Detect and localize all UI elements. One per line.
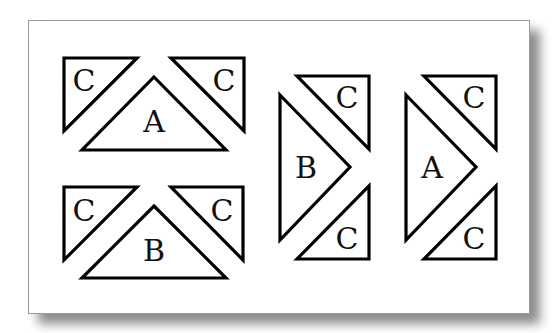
piece-label: A <box>142 104 165 139</box>
piece-label: C <box>336 80 359 115</box>
piece-label: C <box>463 221 486 256</box>
piecing-diagram: C C A C C B C B C C A C <box>0 0 558 333</box>
unit-right-2: C A C <box>406 76 496 259</box>
piece-label: C <box>211 193 234 228</box>
piece-label: B <box>295 150 317 185</box>
unit-bottom-left: C C B <box>64 187 243 278</box>
piece-label: C <box>213 63 236 98</box>
piece-label: C <box>463 80 486 115</box>
unit-right-1: C B C <box>280 76 369 259</box>
piece-label: B <box>143 233 165 268</box>
piece-label: A <box>420 150 443 185</box>
piece-label: C <box>336 221 359 256</box>
piece-label: C <box>73 63 96 98</box>
unit-top-left: C C A <box>64 58 244 150</box>
piece-label: C <box>73 193 96 228</box>
